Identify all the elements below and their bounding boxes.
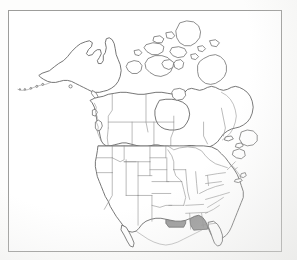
arctic-islet-a xyxy=(134,50,142,56)
arctic-islet-d xyxy=(191,54,199,60)
map-frame xyxy=(8,10,282,252)
page-canvas xyxy=(0,0,297,260)
alaska-mainland xyxy=(39,38,121,93)
nova-scotia xyxy=(232,149,245,159)
banks-island xyxy=(126,61,142,74)
aleutian-island-4 xyxy=(24,89,26,91)
arctic-islet-c xyxy=(166,32,175,39)
arctic-islet-e xyxy=(210,40,220,47)
ellesmere-island xyxy=(176,21,201,46)
arctic-islet-b xyxy=(153,36,164,43)
southampton-island xyxy=(172,88,186,100)
aleutian-island-1 xyxy=(42,83,44,85)
kodiak-island xyxy=(69,85,72,88)
mexico-northern-edge xyxy=(136,230,202,245)
north-america-map xyxy=(9,11,281,251)
melville-island xyxy=(144,43,164,55)
anticosti-island xyxy=(224,136,233,141)
aleutian-island-3 xyxy=(30,87,32,89)
baffin-island xyxy=(198,55,227,85)
aleutian-chain xyxy=(18,82,51,90)
aleutian-island-5 xyxy=(19,89,20,90)
devon-island xyxy=(170,47,187,58)
arctic-islet-f xyxy=(198,46,206,52)
aleutian-island-2 xyxy=(36,85,38,87)
prince-edward-island xyxy=(235,143,243,148)
somerset-island xyxy=(174,60,184,70)
cape-cod xyxy=(240,173,246,178)
hudson-bay xyxy=(155,99,190,130)
